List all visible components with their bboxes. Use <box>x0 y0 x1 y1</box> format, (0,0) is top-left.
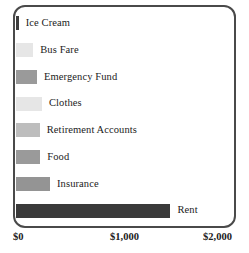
x-tick-label-0: $0 <box>13 232 24 243</box>
bar-label-clothes: Clothes <box>42 98 82 109</box>
bar-row: Ice Cream <box>16 10 232 37</box>
bar-label-emergency-fund: Emergency Fund <box>37 72 117 83</box>
bar-row: Food <box>16 144 232 171</box>
bar-rent <box>16 204 170 218</box>
bar-row: Bus Fare <box>16 37 232 64</box>
bar-row: Emergency Fund <box>16 64 232 91</box>
bar-retirement-accounts <box>16 123 40 137</box>
bar-label-food: Food <box>40 152 69 163</box>
bar-label-bus-fare: Bus Fare <box>33 45 78 56</box>
bar-row: Retirement Accounts <box>16 117 232 144</box>
x-tick-label-2000: $2,000 <box>203 232 232 243</box>
bar-chart: Ice Cream Bus Fare Emergency Fund Clothe… <box>0 0 249 253</box>
bar-food <box>16 150 40 164</box>
bar-label-rent: Rent <box>170 205 197 216</box>
bar-bus-fare <box>16 43 33 57</box>
bar-label-insurance: Insurance <box>50 179 99 190</box>
bar-row: Insurance <box>16 171 232 198</box>
bar-row: Rent <box>16 197 232 224</box>
bar-label-ice-cream: Ice Cream <box>19 18 70 29</box>
bar-row: Clothes <box>16 90 232 117</box>
x-axis: $0 $1,000 $2,000 <box>0 232 249 252</box>
x-tick-label-1000: $1,000 <box>110 232 139 243</box>
bar-label-retirement-accounts: Retirement Accounts <box>40 125 137 136</box>
bars-area: Ice Cream Bus Fare Emergency Fund Clothe… <box>16 10 232 224</box>
bar-emergency-fund <box>16 70 37 84</box>
bar-clothes <box>16 97 42 111</box>
bar-insurance <box>16 177 50 191</box>
